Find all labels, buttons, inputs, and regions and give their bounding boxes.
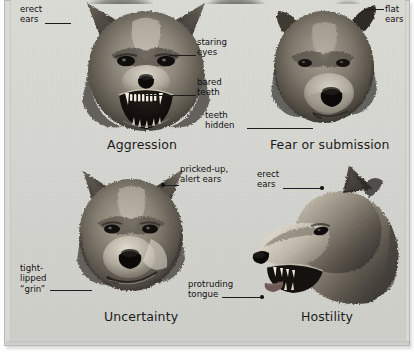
leader-protruding-tongue xyxy=(222,297,261,298)
figure-plate: erect ears staring eyes bared teeth Aggr… xyxy=(10,0,406,341)
annotation-erect-ears-hostility: erect ears xyxy=(257,169,279,190)
annotation-staring-eyes: staring eyes xyxy=(197,37,227,58)
annotation-protruding-line2: tongue xyxy=(188,289,233,299)
annotation-bared-teeth-line2: teeth xyxy=(197,87,222,97)
annotation-tight-lipped-grin: tight- lipped “grin” xyxy=(20,263,46,294)
annotation-erect-ears-line2: ears xyxy=(20,14,42,24)
annotation-tight-lipped-line3: “grin” xyxy=(20,284,46,294)
annotation-staring-eyes-line2: eyes xyxy=(197,47,227,57)
leader-staring-eyes xyxy=(169,55,196,56)
annotation-erect-ears: erect ears xyxy=(20,4,42,25)
annotation-staring-eyes-line1: staring xyxy=(197,37,227,47)
figure-root: erect ears staring eyes bared teeth Aggr… xyxy=(0,0,414,357)
annotation-teeth-hidden-line2: hidden xyxy=(205,120,234,130)
wolf-head-uncertainty xyxy=(59,165,209,307)
leader-dot-erect-ears-hostility xyxy=(320,186,324,190)
annotation-flat-ears-line1: flat xyxy=(385,4,404,14)
annotation-erect-ears-line1: erect xyxy=(20,4,42,14)
leader-pricked-up-alert-ears xyxy=(163,185,179,186)
annotation-flat-ears: flat ears xyxy=(385,4,404,25)
cutoff-blob-left xyxy=(89,0,153,4)
leader-erect-ears xyxy=(45,23,71,24)
leader-erect-ears-hostility xyxy=(283,188,321,189)
leader-dot-pricked-ears xyxy=(161,183,165,187)
figure-frame: erect ears staring eyes bared teeth Aggr… xyxy=(4,0,410,346)
annotation-tight-lipped-line1: tight- xyxy=(20,263,46,273)
caption-fear-or-submission: Fear or submission xyxy=(270,137,390,152)
annotation-protruding-line1: protruding xyxy=(188,279,233,289)
leader-dot-protruding-tongue xyxy=(260,295,264,299)
cutoff-blob-far-right xyxy=(335,0,361,4)
annotation-teeth-hidden-line1: teeth xyxy=(205,110,234,120)
caption-uncertainty: Uncertainty xyxy=(104,309,178,324)
wolf-head-aggression xyxy=(71,0,221,139)
leader-teeth-hidden xyxy=(247,128,313,129)
top-cutoff-strip xyxy=(11,0,405,4)
annotation-tight-lipped-line2: lipped xyxy=(20,273,46,283)
annotation-erect-ears2-line2: ears xyxy=(257,179,279,189)
leader-bared-teeth xyxy=(146,95,196,96)
annotation-bared-teeth-line1: bared xyxy=(197,77,222,87)
leader-tight-lipped-grin xyxy=(50,290,92,291)
caption-hostility: Hostility xyxy=(301,309,353,324)
cutoff-blob-right xyxy=(207,0,265,4)
annotation-bared-teeth: bared teeth xyxy=(197,77,222,98)
annotation-teeth-hidden: teeth hidden xyxy=(205,110,234,131)
annotation-pricked-up-line2: alert ears xyxy=(180,174,228,184)
leader-flat-ears xyxy=(365,9,384,10)
annotation-erect-ears2-line1: erect xyxy=(257,169,279,179)
wolf-head-fear xyxy=(261,1,391,137)
annotation-flat-ears-line2: ears xyxy=(385,14,404,24)
annotation-pricked-up-alert-ears: pricked-up, alert ears xyxy=(180,164,228,185)
caption-aggression: Aggression xyxy=(107,137,177,152)
frame-drop-shadow xyxy=(6,341,410,346)
annotation-pricked-up-line1: pricked-up, xyxy=(180,164,228,174)
